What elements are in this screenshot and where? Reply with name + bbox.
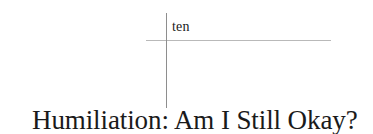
chapter-number-label: ten	[172, 19, 190, 35]
horizontal-rule	[146, 40, 331, 41]
chapter-title: Humiliation: Am I Still Okay?	[32, 105, 362, 134]
chapter-opening-page: ten Humiliation: Am I Still Okay?	[0, 0, 373, 134]
vertical-rule	[166, 13, 167, 108]
